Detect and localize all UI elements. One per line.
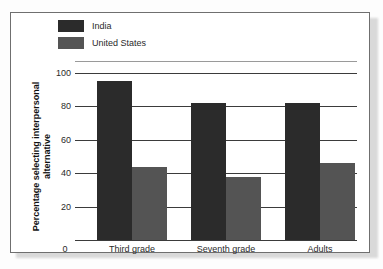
y-axis-title: Percentage selecting interpersonal alter…: [29, 73, 55, 240]
bar-group-seventh-grade: [191, 73, 261, 240]
y-axis-tick-80: 80: [61, 101, 71, 111]
bar-india-third-grade: [97, 81, 132, 240]
bar-united-states-third-grade: [132, 167, 167, 240]
plot-area: 20406080100 0 Third gradeSeventh gradeAd…: [75, 73, 357, 240]
legend-swatch-united-states: [58, 37, 84, 49]
y-axis-tick-60: 60: [61, 135, 71, 145]
figure-frame: India United States Percentage selecting…: [10, 12, 370, 253]
legend-swatch-india: [58, 20, 84, 32]
bar-united-states-adults: [320, 163, 355, 240]
chart-legend: India United States: [58, 20, 146, 49]
bar-group-third-grade: [97, 73, 167, 240]
bar-india-adults: [285, 103, 320, 240]
y-axis-zero-label: 0: [62, 244, 67, 254]
y-axis-title-line1: Percentage selecting interpersonal: [31, 82, 41, 232]
legend-item-united-states: United States: [58, 37, 146, 49]
bar-united-states-seventh-grade: [226, 177, 261, 240]
page-background: India United States Percentage selecting…: [0, 0, 383, 269]
legend-item-india: India: [58, 20, 146, 32]
legend-label-united-states: United States: [92, 37, 146, 49]
y-axis-title-line2: alternative: [42, 134, 52, 179]
legend-label-india: India: [92, 20, 112, 32]
y-axis-tick-100: 100: [56, 68, 71, 78]
bar-group-adults: [285, 73, 355, 240]
bar-india-seventh-grade: [191, 103, 226, 240]
y-axis-tick-40: 40: [61, 168, 71, 178]
x-axis-tick-adults: Adults: [307, 244, 332, 254]
x-axis-tick-third-grade: Third grade: [109, 244, 155, 254]
y-axis-tick-20: 20: [61, 202, 71, 212]
x-axis-line: [75, 240, 357, 241]
bars-layer: [75, 73, 357, 240]
x-axis-tick-seventh-grade: Seventh grade: [197, 244, 256, 254]
top-rule: [75, 61, 357, 62]
